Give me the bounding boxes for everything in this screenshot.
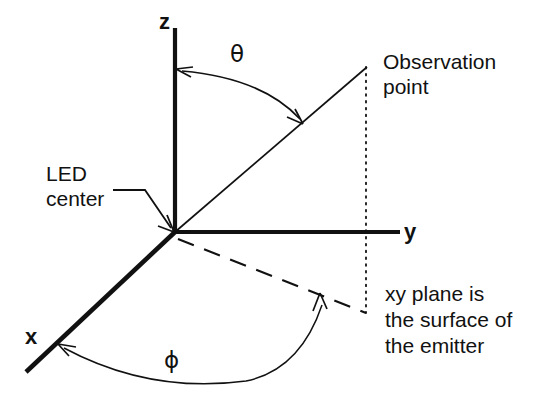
led-center-label-line2: center [46, 186, 104, 211]
led-center-label-line1: LED [46, 161, 87, 186]
x-axis [26, 232, 175, 372]
phi-angle-label: ϕ [164, 348, 179, 373]
spherical-coordinate-diagram: z y x θ ϕ LED center Observation point x… [0, 0, 558, 403]
x-axis-label: x [25, 324, 37, 349]
observation-ray [175, 67, 367, 232]
xy-projection-line [178, 239, 366, 313]
xy-plane-note-line1: xy plane is [385, 281, 484, 307]
y-axis-label: y [404, 219, 416, 244]
led-center-arrowhead [158, 215, 174, 232]
theta-arc [182, 71, 300, 119]
xy-plane-note-line3: the emitter [385, 333, 484, 359]
z-axis-label: z [159, 9, 170, 34]
observation-point-label-line2: point [383, 74, 429, 99]
theta-angle-label: θ [230, 42, 244, 67]
xy-plane-note-line2: the surface of [385, 307, 512, 333]
phi-arc [64, 305, 322, 384]
led-center-leader-line [113, 190, 171, 228]
theta-arrowhead-ray [287, 109, 303, 124]
observation-point-label-line1: Observation [383, 49, 496, 74]
